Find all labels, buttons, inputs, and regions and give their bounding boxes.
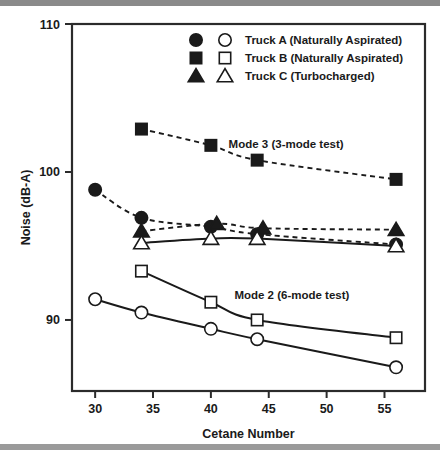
y-axis-title: Noise (dB-A) — [19, 170, 33, 246]
series-truck-b-mode-2 — [136, 265, 402, 343]
x-tick-label-40: 40 — [204, 402, 218, 416]
legend-label-1: Truck A (Naturally Aspirated) — [245, 34, 402, 46]
y-tick-label-100: 100 — [39, 165, 60, 179]
legend-open-marker-3 — [217, 69, 233, 82]
legend-open-marker-1 — [219, 34, 231, 46]
data-point — [390, 174, 401, 185]
annotation-2: Mode 2 (6-mode test) — [234, 289, 349, 301]
data-point — [89, 184, 101, 196]
legend: Truck A (Naturally Aspirated)Truck B (Na… — [188, 34, 403, 83]
data-point — [251, 314, 262, 325]
x-tick-label-45: 45 — [262, 402, 276, 416]
series-line — [141, 129, 396, 179]
series-truck-c-mode-3 — [134, 216, 404, 237]
legend-filled-marker-2 — [190, 52, 201, 63]
data-point — [251, 333, 263, 345]
x-axis-title: Cetane Number — [202, 427, 295, 441]
data-point — [89, 293, 101, 305]
x-tick-label-35: 35 — [146, 402, 160, 416]
series-truck-b-mode-3 — [136, 123, 402, 185]
data-point — [390, 361, 402, 373]
data-point — [136, 123, 147, 134]
data-point — [205, 140, 216, 151]
y-tick-label-90: 90 — [46, 313, 60, 327]
data-point — [390, 332, 401, 343]
x-tick-label-50: 50 — [320, 402, 334, 416]
annotation-1: Mode 3 (3-mode test) — [229, 138, 344, 150]
x-tick-label-55: 55 — [378, 402, 392, 416]
legend-label-3: Truck C (Turbocharged) — [245, 70, 375, 82]
series-line — [141, 271, 396, 338]
data-point — [135, 212, 147, 224]
noise-vs-cetane-chart: 90100110303540455055Cetane NumberNoise (… — [0, 0, 440, 450]
legend-filled-marker-3 — [188, 69, 204, 82]
legend-filled-marker-1 — [190, 34, 202, 46]
chart-figure: 90100110303540455055Cetane NumberNoise (… — [0, 0, 440, 450]
legend-open-marker-2 — [219, 52, 230, 63]
data-point — [135, 306, 147, 318]
data-point — [205, 323, 217, 335]
legend-label-2: Truck B (Naturally Aspirated) — [245, 52, 403, 64]
series-truck-a-mode-3 — [89, 184, 402, 251]
y-tick-label-110: 110 — [40, 18, 60, 32]
data-point — [388, 222, 404, 235]
data-point — [251, 154, 262, 165]
x-tick-label-30: 30 — [88, 402, 102, 416]
data-point — [205, 297, 216, 308]
data-point — [136, 265, 147, 276]
